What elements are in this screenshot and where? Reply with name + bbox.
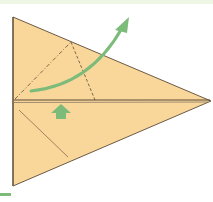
bottom-tab-marker [0, 193, 11, 196]
center-edge-line-2 [14, 102, 208, 103]
origami-diagram [0, 0, 213, 202]
curved-arrow-head-icon [115, 17, 129, 33]
